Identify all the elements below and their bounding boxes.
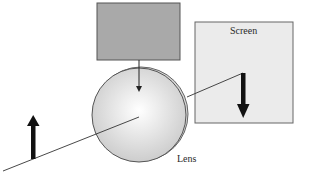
optics-diagram [0, 0, 309, 183]
source-box [97, 3, 180, 60]
lens-label: Lens [177, 153, 196, 164]
image-arrow-shaft [241, 73, 246, 106]
object-arrow-shaft [31, 124, 36, 159]
screen-label: Screen [230, 25, 257, 36]
object-arrow-up-icon [27, 115, 40, 126]
